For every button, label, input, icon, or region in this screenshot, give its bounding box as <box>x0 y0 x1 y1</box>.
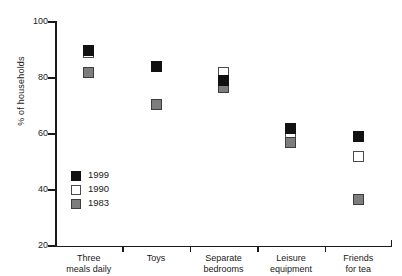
x-axis-category-line: for tea <box>312 264 402 275</box>
x-tick-mark <box>257 246 258 252</box>
data-point-marker <box>83 67 94 78</box>
y-axis-line <box>55 21 57 247</box>
chart-container: % of households 10080604020 Threemeals d… <box>0 0 402 276</box>
y-tick-mark <box>48 21 55 22</box>
data-point-marker <box>83 45 94 56</box>
y-tick-mark <box>48 133 55 134</box>
y-tick-label: 80 <box>8 72 48 82</box>
data-point-marker <box>151 99 162 110</box>
y-tick-mark <box>48 189 55 190</box>
y-tick-label: 60 <box>8 128 48 138</box>
y-tick-label: 40 <box>8 184 48 194</box>
y-tick-label: 20 <box>8 240 48 250</box>
data-point-marker <box>151 61 162 72</box>
legend-label-1990: 1990 <box>88 183 109 194</box>
data-point-marker <box>353 151 364 162</box>
x-tick-mark <box>190 246 191 252</box>
x-tick-mark <box>122 246 123 252</box>
data-point-marker <box>353 131 364 142</box>
x-axis-category-line: meals daily <box>43 264 135 275</box>
x-axis-category-label: Friendsfor tea <box>312 253 402 275</box>
data-point-marker <box>285 123 296 134</box>
legend-swatch-1999-icon <box>71 171 81 181</box>
y-tick-mark <box>48 77 55 78</box>
x-axis-line <box>55 246 392 248</box>
legend-swatch-1983-icon <box>71 199 81 209</box>
legend-swatch-1990-icon <box>71 185 81 195</box>
y-tick-label: 100 <box>8 16 48 26</box>
y-tick-mark <box>48 245 55 246</box>
x-tick-mark <box>325 246 326 252</box>
x-axis-category-line: Friends <box>312 253 402 264</box>
legend-label-1999: 1999 <box>88 169 109 180</box>
x-axis-cap <box>391 240 392 248</box>
data-point-marker <box>285 137 296 148</box>
data-point-marker <box>218 75 229 86</box>
x-axis-cap <box>55 240 56 248</box>
legend-label-1983: 1983 <box>88 197 109 208</box>
data-point-marker <box>353 194 364 205</box>
